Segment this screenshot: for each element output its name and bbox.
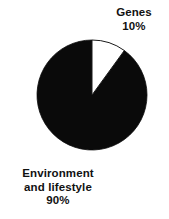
genes-label-percent: 10% [102,20,166,34]
environment-label-line1: Environment [3,167,113,181]
genes-label-name: Genes [102,6,166,20]
pie-chart-figure: Genes 10% Environment and lifestyle 90% [0,0,169,219]
environment-label-line2: and lifestyle [3,181,113,195]
genes-label-group: Genes 10% [102,6,166,33]
environment-label-percent: 90% [3,194,113,208]
environment-label-group: Environment and lifestyle 90% [3,167,113,208]
